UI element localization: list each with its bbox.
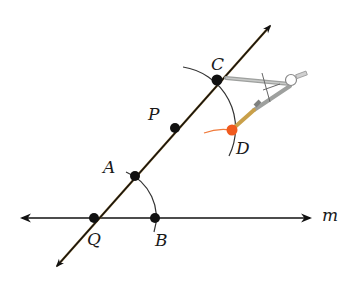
label-D: D [236, 140, 250, 157]
point-D [227, 125, 238, 136]
label-P: P [148, 106, 159, 123]
label-C: C [211, 56, 224, 73]
label-line-m: m [322, 207, 338, 224]
point-C [212, 75, 223, 86]
arc-QAB [126, 172, 156, 232]
point-P [170, 123, 180, 133]
compass-icon [226, 71, 307, 126]
construction-svg [0, 0, 350, 283]
arc-PCD [183, 67, 236, 156]
label-A: A [103, 159, 115, 176]
point-Q [89, 213, 99, 223]
point-A [130, 171, 140, 181]
diagram-canvas: Q B A P C D m [0, 0, 350, 283]
label-B: B [155, 232, 168, 249]
point-B [150, 213, 160, 223]
label-Q: Q [87, 231, 101, 248]
